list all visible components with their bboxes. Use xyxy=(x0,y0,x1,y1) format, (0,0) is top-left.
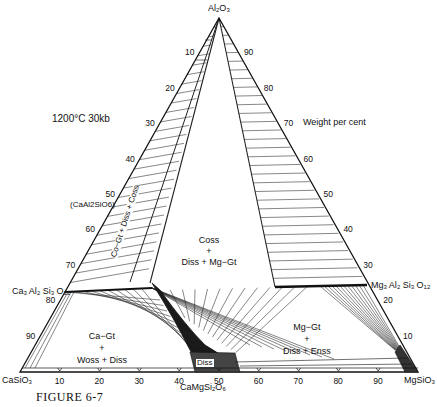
right-axis-tick: 40 xyxy=(343,225,352,234)
bottom-axis-tick: 60 xyxy=(254,377,263,386)
left-axis-tick: 80 xyxy=(46,296,55,305)
left-axis-tick: 90 xyxy=(26,332,35,341)
left-axis-tick: 10 xyxy=(185,48,194,57)
left-axis-tick: 70 xyxy=(66,261,75,270)
ca-garnet-label: Ca3 Al2 Si3 O12 xyxy=(12,287,70,296)
vertex-mgsio3: MgSiO3 xyxy=(404,376,435,385)
field-mg-gt: Mg−Gt+Diss + Enss xyxy=(272,323,342,356)
right-axis-tick: 80 xyxy=(264,84,273,93)
tie-lines-left xyxy=(196,40,212,60)
vertex-al2o3: Al2O3 xyxy=(208,4,230,13)
ca-tschermak-label: (CaAl2SiO6) xyxy=(70,201,115,209)
right-axis-tick: 30 xyxy=(363,261,372,270)
bottom-axis-tick: 40 xyxy=(174,377,183,386)
left-axis-tick: 20 xyxy=(165,84,174,93)
vertex-casio3: CaSiO3 xyxy=(2,376,32,385)
bottom-axis-tick: 90 xyxy=(373,377,382,386)
field-di-ss: Diss xyxy=(196,359,214,367)
left-axis-tick: 50 xyxy=(106,190,115,199)
right-axis-tick: 60 xyxy=(304,155,313,164)
bottom-axis-tick: 30 xyxy=(134,377,143,386)
bottom-axis-tick: 70 xyxy=(294,377,303,386)
right-axis-tick: 20 xyxy=(383,296,392,305)
right-axis-tick: 50 xyxy=(324,190,333,199)
field-ca-gt: Ca−Gt+Woss + Diss xyxy=(72,332,132,365)
mg-garnet-label: Mg3 Al2 Si3 O12 xyxy=(371,281,430,290)
units-label: Weight per cent xyxy=(303,118,366,127)
right-axis-tick: 10 xyxy=(403,332,412,341)
conditions-label: 1200°C 30kb xyxy=(52,114,110,124)
ternary-diagram xyxy=(0,0,437,407)
left-axis-tick: 30 xyxy=(145,119,154,128)
bottom-axis-tick: 80 xyxy=(333,377,342,386)
left-axis-tick: 40 xyxy=(125,155,134,164)
bottom-axis-tick: 50 xyxy=(214,377,223,386)
bottom-axis-tick: 20 xyxy=(95,377,104,386)
left-axis-tick: 60 xyxy=(86,225,95,234)
right-axis-tick: 70 xyxy=(284,119,293,128)
right-axis-tick: 90 xyxy=(244,48,253,57)
bottom-axis-tick: 10 xyxy=(55,377,64,386)
mg-garnet-join xyxy=(275,285,367,287)
ca-garnet-join xyxy=(65,288,152,292)
field-coss: Coss+Diss + Mg−Gt xyxy=(176,236,242,267)
figure-caption: FIGURE 6-7 xyxy=(36,390,103,405)
